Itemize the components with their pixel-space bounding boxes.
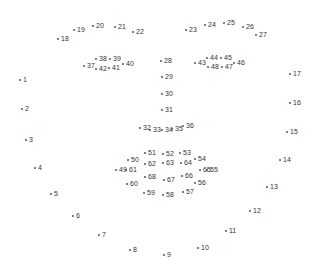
landmark-point: 37 — [83, 62, 95, 69]
landmark-point: 29 — [161, 73, 173, 80]
landmark-marker-icon — [72, 215, 74, 217]
landmark-marker-icon — [163, 254, 165, 256]
landmark-marker-icon — [108, 67, 110, 69]
landmark-point: 24 — [204, 21, 216, 28]
landmark-point: 26 — [242, 23, 254, 30]
landmark-marker-icon — [161, 93, 163, 95]
landmark-label: 10 — [201, 244, 209, 251]
landmark-marker-icon — [21, 108, 23, 110]
landmark-point: 56 — [194, 179, 206, 186]
landmark-marker-icon — [279, 159, 281, 161]
landmark-label: 60 — [130, 180, 138, 187]
landmark-point: 25 — [223, 19, 235, 26]
landmark-label: 8 — [133, 246, 137, 253]
landmark-marker-icon — [249, 210, 251, 212]
landmark-label: 59 — [147, 189, 155, 196]
landmark-point: 62 — [144, 160, 156, 167]
landmark-point: 52 — [162, 150, 174, 157]
landmark-marker-icon — [233, 62, 235, 64]
landmark-point: 50 — [127, 156, 139, 163]
landmark-marker-icon — [182, 191, 184, 193]
landmark-point: 43 — [194, 59, 206, 66]
landmark-label: 13 — [270, 183, 278, 190]
landmark-point: 3 — [25, 136, 33, 143]
landmark-marker-icon — [225, 230, 227, 232]
landmark-point: 63 — [162, 159, 174, 166]
landmark-point: 28 — [160, 57, 172, 64]
landmark-label: 21 — [118, 23, 126, 30]
landmark-label: 4 — [38, 164, 42, 171]
landmark-marker-icon — [50, 193, 52, 195]
landmark-point: 9 — [163, 251, 171, 258]
landmark-label: 5 — [54, 190, 58, 197]
landmark-point: 13 — [266, 183, 278, 190]
landmark-point: 18 — [57, 35, 69, 42]
landmark-point: 61 — [125, 166, 137, 173]
landmark-label: 29 — [165, 73, 173, 80]
landmark-label: 15 — [290, 128, 298, 135]
landmark-point: 38 — [95, 55, 107, 62]
landmark-point: 44 — [206, 54, 218, 61]
landmark-marker-icon — [180, 162, 182, 164]
landmark-marker-icon — [199, 169, 201, 171]
landmark-label: 53 — [183, 149, 191, 156]
landmark-marker-icon — [129, 249, 131, 251]
landmark-label: 36 — [186, 122, 194, 129]
landmark-point: 33 — [149, 126, 161, 133]
landmark-point: 7 — [98, 231, 106, 238]
landmark-marker-icon — [163, 179, 165, 181]
landmark-marker-icon — [289, 73, 291, 75]
landmark-label: 61 — [129, 166, 137, 173]
landmark-point: 14 — [279, 156, 291, 163]
landmark-point: 48 — [207, 63, 219, 70]
landmark-point: 60 — [126, 180, 138, 187]
landmark-label: 67 — [167, 176, 175, 183]
landmark-marker-icon — [127, 159, 129, 161]
landmark-marker-icon — [182, 125, 184, 127]
landmark-label: 48 — [211, 63, 219, 70]
landmark-marker-icon — [206, 57, 208, 59]
landmark-point: 11 — [225, 227, 236, 234]
landmark-point: 5 — [50, 190, 58, 197]
landmark-marker-icon — [160, 60, 162, 62]
landmark-point: 51 — [144, 149, 156, 156]
landmark-point: 59 — [143, 189, 155, 196]
landmark-marker-icon — [34, 167, 36, 169]
landmark-label: 62 — [148, 160, 156, 167]
landmark-marker-icon — [162, 162, 164, 164]
landmark-label: 58 — [166, 191, 174, 198]
landmark-point: 67 — [163, 176, 175, 183]
landmark-label: 28 — [164, 57, 172, 64]
landmark-label: 50 — [131, 156, 139, 163]
landmark-point: 27 — [255, 31, 267, 38]
landmark-point: 22 — [132, 28, 144, 35]
landmark-label: 6 — [76, 212, 80, 219]
landmark-marker-icon — [286, 131, 288, 133]
landmark-point: 68 — [144, 173, 156, 180]
landmark-point: 58 — [162, 191, 174, 198]
landmark-point: 64 — [180, 159, 192, 166]
landmark-label: 43 — [198, 59, 206, 66]
landmark-marker-icon — [114, 26, 116, 28]
landmark-label: 14 — [283, 156, 291, 163]
landmark-label: 52 — [166, 150, 174, 157]
landmark-label: 2 — [25, 105, 29, 112]
landmark-marker-icon — [266, 186, 268, 188]
landmark-label: 47 — [225, 63, 233, 70]
landmark-marker-icon — [220, 57, 222, 59]
landmark-point: 17 — [289, 70, 301, 77]
landmark-marker-icon — [161, 76, 163, 78]
landmark-label: 45 — [224, 54, 232, 61]
landmark-marker-icon — [115, 169, 117, 171]
landmark-point: 4 — [34, 164, 42, 171]
landmark-marker-icon — [194, 158, 196, 160]
landmark-point: 47 — [221, 63, 233, 70]
landmark-marker-icon — [255, 34, 257, 36]
facial-landmark-diagram: 1234567891011121314151617181920212223242… — [0, 0, 318, 273]
landmark-marker-icon — [144, 163, 146, 165]
landmark-point: 46 — [233, 59, 245, 66]
landmark-marker-icon — [161, 109, 163, 111]
landmark-label: 68 — [148, 173, 156, 180]
landmark-marker-icon — [197, 247, 199, 249]
landmark-marker-icon — [194, 182, 196, 184]
